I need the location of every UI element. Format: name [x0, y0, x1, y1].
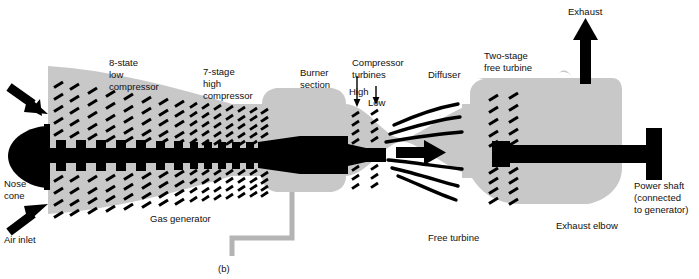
label-gas-generator: Gas generator [150, 213, 211, 224]
label-low-compressor-line3: compressor [109, 81, 159, 92]
label-free-turbine-bottom: Free turbine [428, 232, 479, 243]
gas-turbine-diagram: 8-state low compressor 7-stage high comp… [0, 0, 699, 279]
label-high-compressor-line1: 7-stage [203, 66, 235, 77]
fuel-drain-pipe [232, 192, 292, 256]
label-turbine-high: High [349, 86, 369, 97]
label-low-compressor-line1: 8-state [109, 57, 138, 68]
air-inlet-arrow-lower [9, 204, 48, 232]
label-power-shaft-line3: to generator) [634, 204, 688, 215]
label-compressor-turbines-line2: turbines [352, 69, 386, 80]
figure-caption: (b) [218, 263, 230, 274]
label-power-shaft-line1: Power shaft [634, 180, 685, 191]
label-high-compressor-line2: high [203, 78, 221, 89]
exhaust-arrow [573, 18, 598, 84]
label-low-compressor-line2: low [109, 69, 123, 80]
air-inlet-arrow-upper [8, 86, 48, 116]
label-diffuser: Diffuser [428, 69, 461, 80]
compressor-turbine-shaft [360, 148, 386, 162]
label-nose-cone-line1: Nose [4, 178, 26, 189]
label-burner-line1: Burner [300, 67, 329, 78]
label-power-shaft-line2: (connected [634, 192, 681, 203]
exhaust-elbow-casing [470, 71, 622, 205]
figure-canvas: 8-state low compressor 7-stage high comp… [0, 0, 699, 279]
label-free-turbine-top-line1: Two-stage [484, 50, 528, 61]
casing-joint-patch [462, 104, 480, 178]
label-compressor-turbines-line1: Compressor [352, 57, 404, 68]
label-exhaust-elbow: Exhaust elbow [556, 220, 618, 231]
label-burner-line2: section [300, 79, 330, 90]
label-free-turbine-top-line2: free turbine [484, 62, 532, 73]
label-nose-cone-line2: cone [4, 190, 25, 201]
label-high-compressor-line3: compressor [203, 90, 253, 101]
label-air-inlet: Air inlet [4, 234, 36, 245]
label-turbine-low: Low [368, 97, 386, 108]
label-exhaust: Exhaust [568, 6, 603, 17]
